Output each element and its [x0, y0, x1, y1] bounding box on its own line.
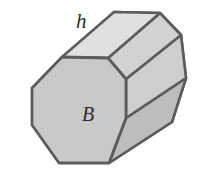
prism-front-base-face [32, 57, 126, 163]
base-label: B [82, 103, 94, 125]
octagonal-prism-figure: h B [0, 0, 204, 172]
figure-container: h B [0, 0, 204, 172]
height-label: h [76, 9, 87, 33]
